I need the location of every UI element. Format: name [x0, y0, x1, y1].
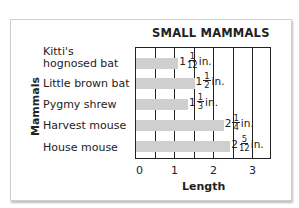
category-label-line: hognosed bat: [43, 58, 118, 70]
bar: [136, 120, 224, 131]
x-tick: 2: [210, 164, 217, 177]
bar: [136, 78, 195, 89]
category-label-harvest-mouse: Harvest mouse: [43, 120, 126, 132]
x-tick: 0: [136, 164, 143, 177]
category-label-kittis-bat: Kitti's hognosed bat: [43, 46, 118, 70]
bar-value-label: 214in.: [225, 114, 254, 131]
category-label-pygmy-shrew: Pygmy shrew: [43, 99, 117, 111]
bar: [136, 58, 178, 69]
x-tick: 3: [249, 164, 256, 177]
bar-value-label: 112in.: [196, 72, 225, 89]
bar: [136, 99, 188, 110]
bar-value-label: 113in.: [189, 93, 218, 110]
category-label-little-brown-bat: Little brown bat: [43, 78, 130, 90]
x-tick: 1: [171, 164, 178, 177]
y-axis-label: Mammals: [29, 77, 42, 136]
x-axis-label: Length: [182, 180, 225, 193]
chart-title: SMALL MAMMALS: [152, 26, 270, 40]
category-label-house-mouse: House mouse: [43, 142, 118, 154]
bar-value-label: 1112in.: [179, 52, 211, 69]
bar: [136, 141, 230, 152]
bar-value-label: 2512in.: [231, 135, 263, 152]
